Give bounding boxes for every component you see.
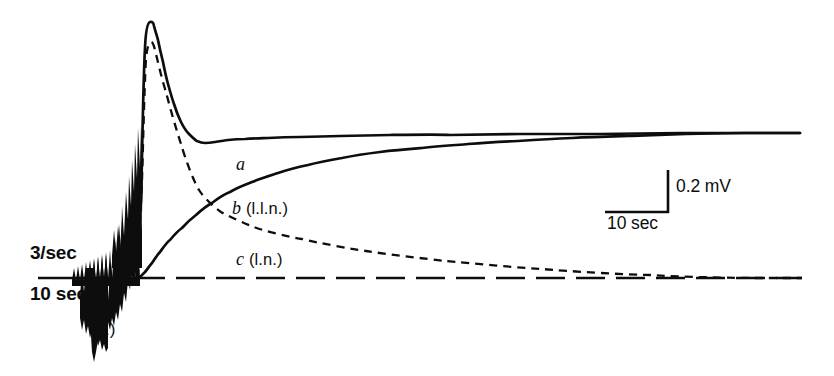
curve-label-c: c (l.n.) (236, 250, 283, 268)
curve-label-b: b (l.l.n.) (232, 199, 288, 217)
curve-label-b-qualifier: (l.l.n.) (246, 199, 288, 217)
curve-label-b-symbol: b (232, 198, 241, 218)
scale-bar (605, 170, 669, 213)
scale-bar-voltage-label: 0.2 mV (676, 178, 731, 196)
curve-label-c-symbol: c (236, 249, 244, 269)
figure-root: a b (l.l.n.) c (l.n.) 3/sec 10 sec 0.2 m… (0, 0, 834, 376)
stimulus-rate-label: 3/sec (30, 243, 77, 262)
curve-label-c-qualifier: (l.n.) (249, 250, 283, 268)
time-axis-label: 10 sec (30, 284, 87, 303)
scale-bar-time-label: 10 sec (607, 215, 658, 233)
curve-label-a: a (236, 155, 245, 173)
curve-label-a-symbol: a (236, 154, 245, 174)
curve-a-trace (137, 22, 800, 278)
stimulus-pulse-label: (p.) (90, 321, 116, 338)
